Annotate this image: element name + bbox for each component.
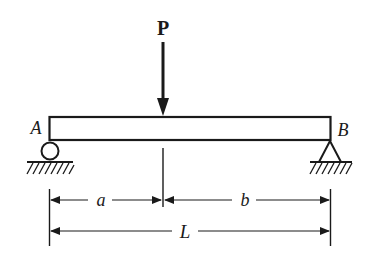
support-a-label: A [30, 118, 43, 138]
load-p: P [157, 17, 169, 116]
roller-support-icon [27, 143, 74, 175]
dimension-a-label: a [97, 190, 106, 210]
dimension-l: L [51, 221, 329, 242]
dimension-b: b [165, 190, 329, 210]
beam-diagram: P A [0, 0, 370, 266]
support-b-label: B [338, 120, 349, 140]
pin-support-icon [310, 141, 352, 174]
dimension-a: a [51, 190, 161, 210]
ground-hatch-icon [27, 163, 74, 174]
dimension-b-label: b [241, 190, 250, 210]
dimension-l-label: L [179, 221, 191, 242]
beam [50, 117, 331, 140]
arrow-down-icon [157, 42, 169, 116]
load-label: P [157, 17, 169, 39]
ground-hatch-icon [310, 163, 352, 174]
